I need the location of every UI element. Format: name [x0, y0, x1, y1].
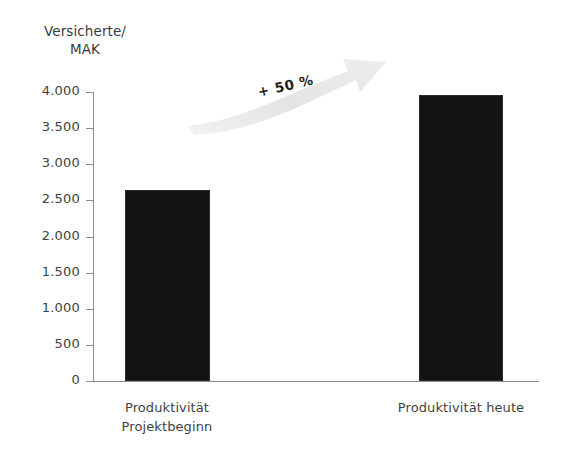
- growth-arrow-label: + 50 %: [256, 71, 315, 99]
- category-label-line1: Produktivität heute: [398, 400, 524, 415]
- y-tick-mark: [86, 164, 94, 165]
- y-axis-title-line1: Versicherte/: [44, 23, 126, 39]
- x-axis-line: [93, 381, 539, 382]
- y-tick-label: 3.000: [16, 155, 80, 170]
- chart-canvas: Versicherte/ MAK 05001.0001.5002.0002.50…: [0, 0, 569, 455]
- y-tick-label: 0: [16, 372, 80, 387]
- y-tick-mark: [86, 92, 94, 93]
- category-label-0: ProduktivitätProjektbeginn: [77, 398, 257, 436]
- y-tick-label: 2.500: [16, 191, 80, 206]
- y-tick-mark: [86, 128, 94, 129]
- y-tick-label: 1.500: [16, 264, 80, 279]
- y-tick-mark: [86, 381, 94, 382]
- bar-0: [125, 190, 210, 381]
- category-label-1: Produktivität heute: [371, 398, 551, 417]
- y-tick-mark: [86, 345, 94, 346]
- y-tick-label: 500: [16, 336, 80, 351]
- y-axis-title-line2: MAK: [26, 40, 144, 58]
- y-tick-label: 1.000: [16, 300, 80, 315]
- y-tick-label: 3.500: [16, 119, 80, 134]
- y-tick-label: 2.000: [16, 228, 80, 243]
- y-tick-label: 4.000: [16, 83, 80, 98]
- y-tick-mark: [86, 309, 94, 310]
- y-axis-title: Versicherte/ MAK: [26, 22, 144, 58]
- y-tick-mark: [86, 237, 94, 238]
- y-tick-mark: [86, 200, 94, 201]
- category-label-line2: Projektbeginn: [77, 417, 257, 436]
- category-label-line1: Produktivität: [125, 400, 209, 415]
- bar-1: [419, 95, 503, 381]
- y-tick-mark: [86, 273, 94, 274]
